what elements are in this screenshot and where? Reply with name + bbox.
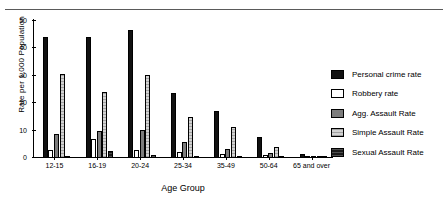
bar-group (300, 21, 327, 158)
bar (97, 131, 102, 158)
x-tick-mark (140, 157, 141, 160)
x-tick-mark (269, 157, 270, 160)
bar (65, 156, 70, 158)
bar (300, 154, 305, 158)
legend-swatch-icon (331, 148, 344, 157)
y-axis-line (33, 19, 34, 158)
bar (54, 134, 59, 158)
bar (220, 154, 225, 158)
bar (237, 156, 242, 158)
bar (182, 142, 187, 158)
legend-label: Sexual Assault Rate (352, 148, 424, 157)
chart-legend: Personal crime rateRobbery rateAgg. Assa… (331, 66, 447, 164)
x-tick-mark (226, 157, 227, 160)
bar-group (171, 21, 198, 158)
x-tick-mark (312, 157, 313, 160)
bar (91, 139, 96, 158)
bar (305, 156, 310, 158)
bar-group (128, 21, 155, 158)
y-tick-mark (32, 102, 36, 103)
y-tick-mark (32, 157, 36, 158)
bar (134, 150, 139, 158)
bar (214, 111, 219, 158)
y-tick-mark (32, 130, 36, 131)
x-tick-mark (54, 157, 55, 160)
legend-item: Agg. Assault Rate (331, 105, 447, 121)
bar (151, 155, 156, 158)
bar (145, 75, 150, 158)
x-axis-title: Age Group (33, 183, 333, 193)
legend-swatch-icon (331, 109, 344, 118)
bar (317, 156, 322, 158)
y-tick-mark (32, 75, 36, 76)
bar (60, 74, 65, 158)
legend-item: Sexual Assault Rate (331, 144, 447, 160)
bar (188, 117, 193, 158)
bar (177, 152, 182, 158)
bar (274, 147, 279, 159)
plot-area: 01020304050 12-1516-1920-2425-3435-4950-… (33, 19, 333, 159)
bar (263, 155, 268, 158)
bar-group (86, 21, 113, 158)
bar (171, 93, 176, 158)
bar (48, 150, 53, 158)
bar-group (257, 21, 284, 158)
legend-swatch-icon (331, 128, 344, 137)
bar (108, 151, 113, 158)
y-tick-label: 10 (0, 127, 27, 134)
bar (140, 130, 145, 158)
y-tick-label: 30 (0, 72, 27, 79)
bar (194, 156, 199, 158)
y-tick-label: 20 (0, 99, 27, 106)
bar (279, 156, 284, 158)
legend-swatch-icon (331, 89, 344, 98)
bar (43, 37, 48, 158)
bar-group (214, 21, 241, 158)
legend-label: Agg. Assault Rate (352, 109, 416, 118)
legend-item: Robbery rate (331, 86, 447, 102)
y-tick-mark (32, 47, 36, 48)
y-tick-mark (32, 20, 36, 21)
bar (128, 30, 133, 159)
legend-item: Simple Assault Rate (331, 125, 447, 141)
legend-label: Robbery rate (352, 89, 398, 98)
x-tick-mark (97, 157, 98, 160)
legend-item: Personal crime rate (331, 66, 447, 82)
legend-swatch-icon (331, 70, 344, 79)
y-tick-label: 40 (0, 44, 27, 51)
legend-label: Simple Assault Rate (352, 128, 424, 137)
x-tick-mark (183, 157, 184, 160)
y-tick-label: 0 (0, 154, 27, 161)
bar-chart: Rate per 1,000 Population 01020304050 12… (0, 0, 448, 206)
y-tick-label: 50 (0, 17, 27, 24)
bar (322, 156, 327, 158)
bar (102, 92, 107, 158)
bar-group (43, 21, 70, 158)
bar (86, 37, 91, 158)
legend-label: Personal crime rate (352, 70, 421, 79)
bar (257, 137, 262, 158)
bar (231, 127, 236, 159)
